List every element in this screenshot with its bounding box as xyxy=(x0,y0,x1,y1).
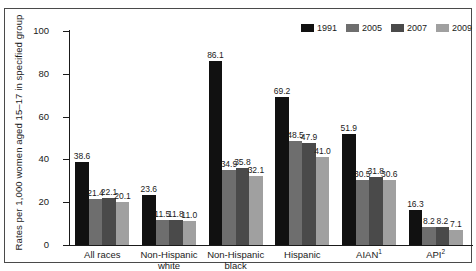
legend-label: 2009 xyxy=(452,24,472,33)
bar-1991[interactable]: 86.1 xyxy=(209,31,223,245)
bar-2009[interactable]: 41.0 xyxy=(316,31,330,245)
bar-2007[interactable]: 35.8 xyxy=(236,31,250,245)
bar-rect[interactable] xyxy=(169,220,183,245)
bar-rect[interactable] xyxy=(156,220,170,245)
bar-group: 51.930.531.830.6 xyxy=(342,31,396,245)
x-axis-label-text: AIAN xyxy=(356,249,378,260)
legend-swatch-icon xyxy=(301,24,314,32)
bar-group-bars: 51.930.531.830.6 xyxy=(342,31,396,245)
bar-2007[interactable]: 8.2 xyxy=(436,31,450,245)
bar-rect[interactable] xyxy=(249,176,263,245)
bar-2007[interactable]: 31.8 xyxy=(369,31,383,245)
bar-rect[interactable] xyxy=(275,97,289,245)
legend-swatch-icon xyxy=(436,24,449,32)
bar-value-label: 11.0 xyxy=(181,211,197,220)
x-axis-label-api: API2 xyxy=(402,249,469,260)
x-axis-label-footnote: 1 xyxy=(378,248,382,255)
bar-value-label: 30.6 xyxy=(381,170,398,179)
y-axis-line xyxy=(69,30,70,246)
bar-rect[interactable] xyxy=(356,180,370,245)
bar-group: 16.38.28.27.1 xyxy=(409,31,463,245)
bar-rect[interactable] xyxy=(183,221,197,245)
legend-item-2005[interactable]: 2005 xyxy=(346,24,382,33)
bar-rect[interactable] xyxy=(449,230,463,245)
x-axis-label-non-hispanic-black: Non-Hispanic black xyxy=(202,249,269,271)
bar-rect[interactable] xyxy=(116,202,130,245)
bar-rect[interactable] xyxy=(209,61,223,245)
bar-1991[interactable]: 16.3 xyxy=(409,31,423,245)
x-axis-label-text: Non-Hispanic white xyxy=(140,249,197,271)
x-axis-label-non-hispanic-white: Non-Hispanic white xyxy=(136,249,203,271)
bar-value-label: 8.2 xyxy=(423,217,435,226)
y-axis-title-text: Rates per 1,000 women aged 15–17 in spec… xyxy=(14,14,25,250)
bar-rect[interactable] xyxy=(436,227,450,245)
legend-swatch-icon xyxy=(391,24,404,32)
x-axis-label-all-races: All races xyxy=(69,249,136,260)
bar-group: 38.621.422.120.1 xyxy=(75,31,129,245)
bar-value-label: 32.1 xyxy=(248,166,265,175)
chart-legend: 1991200520072009 xyxy=(301,22,472,34)
bar-rect[interactable] xyxy=(142,195,156,246)
x-axis-label-text: All races xyxy=(84,249,120,260)
bar-rect[interactable] xyxy=(89,199,103,245)
x-axis-label-text: Hispanic xyxy=(284,249,320,260)
legend-label: 2007 xyxy=(407,24,427,33)
bar-2009[interactable]: 32.1 xyxy=(249,31,263,245)
legend-swatch-icon xyxy=(346,24,359,32)
x-axis-label-hispanic: Hispanic xyxy=(269,249,336,260)
bar-rect[interactable] xyxy=(102,198,116,245)
x-axis-label-text: Non-Hispanic black xyxy=(207,249,264,271)
bar-value-label: 20.1 xyxy=(114,192,131,201)
bar-rect[interactable] xyxy=(316,157,330,245)
bar-2009[interactable]: 7.1 xyxy=(449,31,463,245)
bar-value-label: 7.1 xyxy=(450,220,462,229)
bar-rect[interactable] xyxy=(289,141,303,245)
legend-label: 1991 xyxy=(317,24,337,33)
bar-1991[interactable]: 38.6 xyxy=(75,31,89,245)
bar-rect[interactable] xyxy=(369,177,383,245)
bar-rect[interactable] xyxy=(75,162,89,245)
bar-2005[interactable]: 8.2 xyxy=(422,31,436,245)
bar-2005[interactable]: 21.4 xyxy=(89,31,103,245)
bar-2005[interactable]: 30.5 xyxy=(356,31,370,245)
chart-frame: 1991200520072009 Rates per 1,000 women a… xyxy=(4,8,472,263)
bar-group-bars: 23.611.511.811.0 xyxy=(142,31,196,245)
bar-group-bars: 69.248.547.941.0 xyxy=(275,31,329,245)
bar-2007[interactable]: 47.9 xyxy=(302,31,316,245)
bar-group-bars: 86.134.935.832.1 xyxy=(209,31,263,245)
x-axis-label-text: API xyxy=(426,249,441,260)
bar-2005[interactable]: 34.9 xyxy=(222,31,236,245)
plot-area: 38.621.422.120.123.611.511.811.086.134.9… xyxy=(69,31,469,245)
legend-item-2007[interactable]: 2007 xyxy=(391,24,427,33)
bar-group: 69.248.547.941.0 xyxy=(275,31,329,245)
x-axis-label-footnote: 2 xyxy=(442,248,446,255)
bar-1991[interactable]: 51.9 xyxy=(342,31,356,245)
bar-2009[interactable]: 11.0 xyxy=(183,31,197,245)
legend-label: 2005 xyxy=(362,24,382,33)
legend-item-1991[interactable]: 1991 xyxy=(301,24,337,33)
x-axis-label-aian: AIAN1 xyxy=(336,249,403,260)
bar-group: 86.134.935.832.1 xyxy=(209,31,263,245)
bar-value-label: 8.2 xyxy=(436,217,448,226)
bar-value-label: 41.0 xyxy=(314,147,331,156)
bar-group-bars: 16.38.28.27.1 xyxy=(409,31,463,245)
y-axis-title: Rates per 1,000 women aged 15–17 in spec… xyxy=(10,9,28,255)
bar-group-bars: 38.621.422.120.1 xyxy=(75,31,129,245)
legend-item-2009[interactable]: 2009 xyxy=(436,24,472,33)
bar-2009[interactable]: 20.1 xyxy=(116,31,130,245)
bar-rect[interactable] xyxy=(222,170,236,245)
bar-group: 23.611.511.811.0 xyxy=(142,31,196,245)
bar-2007[interactable]: 22.1 xyxy=(102,31,116,245)
bar-rect[interactable] xyxy=(409,210,423,245)
bar-rect[interactable] xyxy=(302,143,316,246)
bar-rect[interactable] xyxy=(422,227,436,245)
bar-rect[interactable] xyxy=(383,180,397,245)
bar-rect[interactable] xyxy=(236,168,250,245)
bar-rect[interactable] xyxy=(342,134,356,245)
x-axis-line xyxy=(69,245,473,246)
bar-2009[interactable]: 30.6 xyxy=(383,31,397,245)
